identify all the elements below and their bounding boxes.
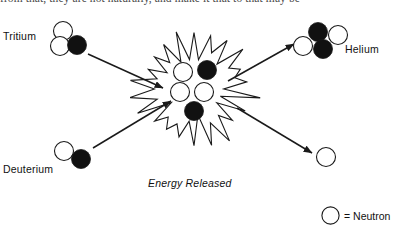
label-energy-released: Energy Released xyxy=(148,177,232,189)
proton-circle xyxy=(314,40,333,59)
legend-label: = Neutron xyxy=(344,210,390,222)
legend: = Neutron xyxy=(321,206,390,225)
proton-circle xyxy=(198,61,217,80)
fusion-diagram-figure: from that, they are not naturally, and m… xyxy=(0,0,402,225)
particle-cluster-tritium xyxy=(51,22,87,56)
label-tritium: Tritium xyxy=(3,30,36,42)
diagram-canvas xyxy=(0,0,402,225)
particle-cluster-free_neutron xyxy=(317,148,336,167)
neutron-circle xyxy=(329,26,348,45)
label-helium: Helium xyxy=(345,43,379,55)
label-deuterium: Deuterium xyxy=(3,163,53,175)
neutron-circle xyxy=(55,142,74,161)
neutron-circle xyxy=(195,83,214,102)
proton-circle xyxy=(309,23,328,42)
neutron-circle xyxy=(174,63,193,82)
legend-neutron-icon xyxy=(321,206,340,225)
core-to-neutron xyxy=(237,108,312,153)
neutron-circle xyxy=(171,83,190,102)
proton-circle xyxy=(185,102,204,121)
core-to-helium xyxy=(228,44,294,81)
proton-circle xyxy=(68,36,87,55)
proton-circle xyxy=(72,150,91,169)
neutron-circle xyxy=(317,148,336,167)
neutron-circle xyxy=(51,37,70,56)
neutron-circle xyxy=(294,37,313,56)
deuterium-to-core xyxy=(93,101,171,148)
particle-cluster-helium xyxy=(294,23,348,59)
particle-cluster-deuterium xyxy=(55,142,91,169)
